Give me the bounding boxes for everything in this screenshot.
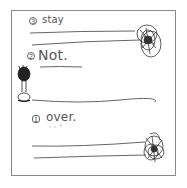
scribble-bottom-right: [144, 133, 164, 162]
item-number-1: 3: [29, 17, 37, 25]
item-word-3: over.: [46, 111, 76, 123]
line-3b: [32, 142, 145, 146]
line-1b: [32, 40, 140, 45]
line-2a: [40, 67, 82, 68]
tiny-marks: [50, 124, 61, 128]
item-number-3: 1: [32, 115, 40, 123]
sketch-lines: [0, 0, 187, 188]
item-word-2: Not.: [38, 48, 68, 62]
line-3c: [34, 155, 146, 158]
scribble-figure: [18, 65, 30, 102]
item-word-1: stay: [42, 15, 64, 25]
item-number-2: 2: [27, 52, 35, 60]
scribble-top-right: [137, 25, 161, 57]
line-1a: [30, 31, 135, 33]
line-3a: [32, 98, 156, 102]
